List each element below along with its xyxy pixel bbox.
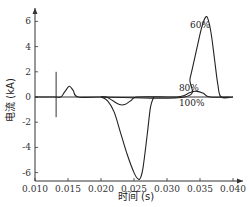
annotation-60pct: 60% <box>190 20 210 30</box>
x-tick-label: 0.030 <box>154 184 180 194</box>
y-tick-label: 2 <box>25 67 31 77</box>
line-chart: -6-4-202460.0100.0150.0200.0250.0300.035… <box>0 0 249 207</box>
series-line-100pct <box>101 97 154 179</box>
y-axis-label: 电流 (kA) <box>4 78 16 122</box>
x-tick-label: 0.035 <box>187 184 213 194</box>
annotation-100pct: 100% <box>179 98 205 108</box>
y-tick-label: -6 <box>22 168 31 178</box>
x-axis-label: 时间 (s) <box>118 190 154 202</box>
x-axis-arrow <box>237 179 243 184</box>
y-tick-label: 4 <box>25 42 31 52</box>
y-tick-label: -4 <box>22 142 31 152</box>
y-tick-label: 6 <box>25 16 31 26</box>
y-axis-arrow <box>33 8 38 14</box>
annotation-80pct: 80% <box>179 83 199 93</box>
x-tick-label: 0.010 <box>22 184 48 194</box>
y-tick-label: 0 <box>25 92 31 102</box>
x-tick-label: 0.020 <box>88 184 114 194</box>
y-tick-label: -2 <box>22 117 31 127</box>
x-tick-label: 0.015 <box>55 184 81 194</box>
x-tick-label: 0.040 <box>220 184 246 194</box>
